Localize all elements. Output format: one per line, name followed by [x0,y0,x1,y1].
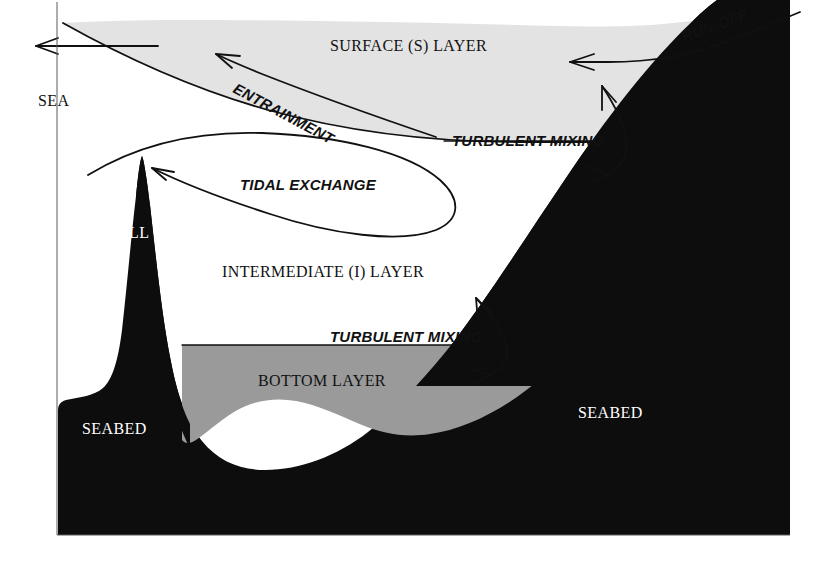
label-sill: SILL [114,224,149,241]
label-seabed-left: SEABED [82,420,147,437]
label-seabed-right: SEABED [578,404,643,421]
fjord-circulation-diagram: SEA SURFACE (S) LAYER INTERMEDIATE (I) L… [0,0,832,573]
label-surface-layer: SURFACE (S) LAYER [330,37,487,55]
label-sea: SEA [38,92,69,109]
label-turbulent-mixing-lower: TURBULENT MIXING [330,328,482,345]
label-turbulent-mixing-upper: TURBULENT MIXING [452,132,604,149]
label-intermediate-layer: INTERMEDIATE (I) LAYER [222,263,424,281]
label-tidal-exchange: TIDAL EXCHANGE [240,176,377,193]
label-bottom-layer: BOTTOM LAYER [258,372,386,389]
